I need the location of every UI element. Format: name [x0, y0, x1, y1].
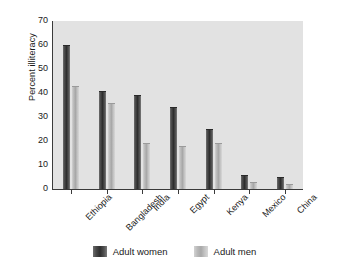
x-tick-label: Ethiopia — [83, 192, 113, 222]
chart-legend: Adult women Adult men — [0, 246, 349, 257]
legend-entry-adult-men: Adult men — [194, 246, 257, 257]
y-tick-label: 30 — [26, 111, 48, 122]
y-tick-label: 60 — [26, 39, 48, 50]
x-tick-label: Kenya — [224, 192, 249, 217]
bar-group — [99, 21, 115, 189]
y-tick-label: 10 — [26, 159, 48, 170]
bar-adult-women — [63, 45, 70, 189]
bar-group — [170, 21, 186, 189]
bar-adult-men — [286, 184, 293, 189]
bar-adult-women — [241, 175, 248, 189]
bar-adult-men — [250, 182, 257, 189]
y-tick-label: 50 — [26, 63, 48, 74]
illiteracy-bar-chart: Percent illiteracy 010203040506070 Ethio… — [0, 0, 349, 274]
x-axis-tick-labels: EthiopiaBangladeshIndiaEgyptKenyaMexicoC… — [52, 192, 312, 238]
bar-adult-women — [277, 177, 284, 189]
bar-group — [134, 21, 150, 189]
y-tick-label: 0 — [26, 183, 48, 194]
bar-adult-men — [179, 146, 186, 189]
bar-adult-men — [143, 143, 150, 189]
bar-adult-women — [170, 107, 177, 189]
y-tick-label: 70 — [26, 15, 48, 26]
y-tick-label: 20 — [26, 135, 48, 146]
x-tick-label: Mexico — [261, 192, 288, 219]
bar-group — [277, 21, 293, 189]
legend-swatch-adult-men — [194, 246, 208, 257]
bar-group — [206, 21, 222, 189]
y-tick-label: 40 — [26, 87, 48, 98]
bar-adult-women — [99, 91, 106, 189]
x-tick-label: Egypt — [188, 192, 211, 215]
bar-adult-women — [206, 129, 213, 189]
legend-label-adult-women: Adult women — [113, 246, 168, 257]
bar-adult-women — [134, 95, 141, 189]
bar-group — [241, 21, 257, 189]
legend-entry-adult-women: Adult women — [93, 246, 168, 257]
bar-adult-men — [215, 143, 222, 189]
legend-label-adult-men: Adult men — [214, 246, 257, 257]
bars-layer — [53, 21, 303, 189]
bar-adult-men — [108, 103, 115, 189]
y-axis-tick-labels: 010203040506070 — [26, 16, 48, 196]
legend-swatch-adult-women — [93, 246, 107, 257]
bar-group — [63, 21, 79, 189]
bar-adult-men — [72, 86, 79, 189]
plot-area — [52, 21, 303, 190]
x-tick-label: China — [295, 192, 319, 216]
